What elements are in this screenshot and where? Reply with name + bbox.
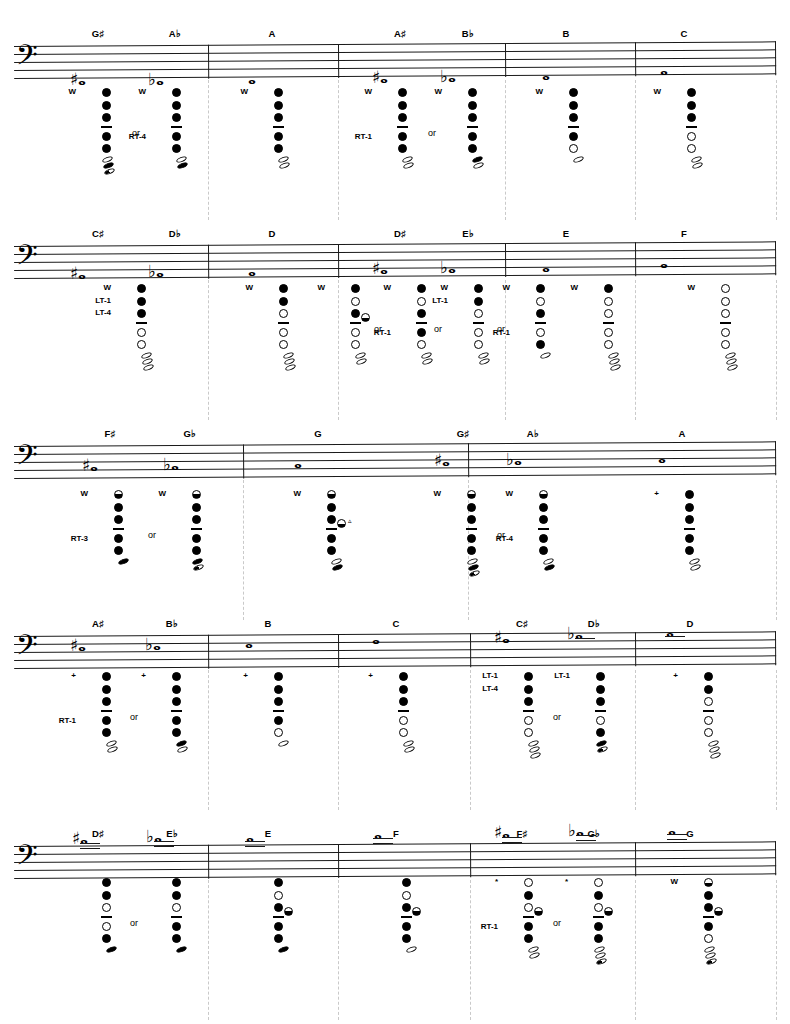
bass-clef-icon: 𝄢 xyxy=(16,841,38,875)
whole-note-glyph: 𝅝 xyxy=(442,447,450,471)
whole-note-glyph: 𝅝 xyxy=(248,257,256,281)
tone-hole-closed xyxy=(274,88,283,97)
whole-note-glyph: 𝅝 xyxy=(78,260,86,284)
or-separator-label: or xyxy=(130,712,138,722)
or-separator-label: or xyxy=(553,712,561,722)
tone-hole-open xyxy=(279,309,288,318)
column-divider xyxy=(776,670,777,810)
accidental-sharp: ♯ xyxy=(72,828,80,848)
accidental-flat: ♭ xyxy=(146,826,154,846)
staff-line xyxy=(14,241,776,247)
ledger-line xyxy=(667,834,687,835)
barline xyxy=(470,843,471,877)
tone-hole-closed xyxy=(402,903,411,912)
side-key xyxy=(412,907,421,916)
tone-hole-open xyxy=(704,728,713,737)
tone-hole-open xyxy=(351,340,360,349)
tone-hole-open xyxy=(604,340,613,349)
tone-hole-closed xyxy=(685,503,694,512)
bridge-key xyxy=(273,126,284,128)
note-head: 𝅝 xyxy=(245,631,253,651)
fingering-key-label: RT-4 xyxy=(467,534,513,543)
fingering-key-label: LT-1 xyxy=(402,296,448,305)
fingering-hole-column xyxy=(683,490,696,571)
tone-hole-closed xyxy=(524,922,533,931)
side-key xyxy=(361,313,370,322)
note-name-label: A♭ xyxy=(503,428,563,439)
tone-hole-closed xyxy=(685,515,694,524)
bridge-key xyxy=(595,710,606,712)
tone-hole-closed xyxy=(524,891,533,900)
tone-hole-closed xyxy=(539,503,548,512)
tone-hole-open xyxy=(596,716,605,725)
fingering-key-label: W xyxy=(42,489,88,498)
fingering-key-label: W xyxy=(402,283,448,292)
tone-hole-closed xyxy=(137,297,146,306)
fingering-key-label: W xyxy=(467,489,513,498)
tone-hole-closed xyxy=(192,515,201,524)
side-key xyxy=(337,519,346,528)
tone-hole-open xyxy=(721,309,730,318)
barline xyxy=(338,44,339,78)
side-key xyxy=(284,907,293,916)
staff-line xyxy=(14,49,776,55)
fingering-hole-column xyxy=(537,490,550,571)
staff-5: 𝄢 xyxy=(14,841,776,880)
column-divider xyxy=(208,670,209,810)
column-divider xyxy=(635,670,636,810)
or-separator-label: or xyxy=(428,128,436,138)
fingering-key-label: RT-1 xyxy=(345,328,391,337)
note-head: ♯𝅝 xyxy=(82,454,98,474)
tone-hole-closed xyxy=(102,891,111,900)
bridge-key xyxy=(101,916,112,918)
tone-hole-closed xyxy=(596,697,605,706)
tone-hole-closed xyxy=(102,685,111,694)
note-name-label: A xyxy=(652,428,712,439)
fingering-hole-column xyxy=(272,88,285,169)
tone-hole-open xyxy=(399,728,408,737)
note-head: ♭𝅝 xyxy=(148,260,164,280)
tone-hole-closed xyxy=(685,546,694,555)
end-barline xyxy=(775,41,776,75)
tone-hole-open xyxy=(536,328,545,337)
accidental-flat: ♭ xyxy=(145,634,153,654)
staff-line xyxy=(14,857,776,863)
bridge-key xyxy=(273,710,284,712)
tone-hole-open xyxy=(524,716,533,725)
bridge-key xyxy=(603,322,614,324)
note-head: ♯𝅝 xyxy=(372,66,388,86)
column-divider xyxy=(776,880,777,1020)
tone-hole-closed xyxy=(274,144,283,153)
whole-note-glyph: 𝅝 xyxy=(502,624,510,648)
bridge-key xyxy=(171,126,182,128)
music-system-5: 𝄢D♯♯𝅝E♭♭𝅝E𝅝F𝅝F♯♯𝅝G♭♭𝅝G𝅝or*RT-1or*W xyxy=(0,828,790,1024)
whole-note-glyph: 𝅝 xyxy=(78,66,86,90)
note-name-label: E xyxy=(536,228,596,239)
fingering-key-label: RT-1 xyxy=(464,328,510,337)
tone-hole-closed xyxy=(274,697,283,706)
note-name-label: B xyxy=(536,28,596,39)
bridge-key xyxy=(171,710,182,712)
or-separator-label: or xyxy=(553,918,561,928)
note-head: ♯𝅝 xyxy=(434,449,450,469)
note-head: ♯𝅝 xyxy=(372,257,388,277)
tone-hole-open xyxy=(687,132,696,141)
accidental-sharp: ♯ xyxy=(494,822,502,842)
bridge-key xyxy=(101,126,112,128)
tone-hole-closed xyxy=(569,113,578,122)
tone-hole-closed xyxy=(468,113,477,122)
note-name-label: A xyxy=(242,28,302,39)
fingering-hole-column xyxy=(272,672,285,747)
fingering-hole-column xyxy=(567,88,580,163)
note-head: ♭𝅝 xyxy=(145,633,161,653)
fingering-key-label: W xyxy=(30,87,76,96)
tone-hole-open xyxy=(279,340,288,349)
fingering-hole-column xyxy=(170,878,183,953)
bridge-key xyxy=(326,528,337,530)
tone-hole-open xyxy=(594,878,603,887)
bridge-key xyxy=(686,126,697,128)
bass-clef-icon: 𝄢 xyxy=(16,241,38,275)
ledger-line xyxy=(502,842,522,843)
ledger-line xyxy=(373,838,393,839)
bridge-key xyxy=(416,322,427,324)
